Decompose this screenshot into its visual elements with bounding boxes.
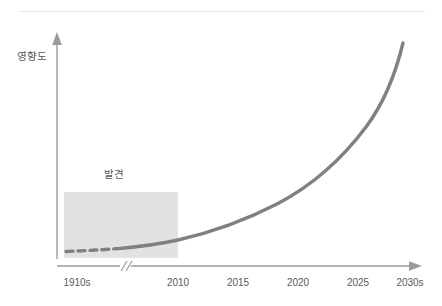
x-tick-label-1910s: 1910s [63, 277, 90, 288]
chart-plot-area [0, 0, 442, 306]
x-axis-arrowhead [409, 261, 422, 271]
discovery-region-label: 발견 [104, 166, 124, 181]
x-tick-label-2020: 2020 [287, 277, 309, 288]
x-tick-label-2015: 2015 [227, 277, 249, 288]
x-tick-label-2030s: 2030s [396, 277, 423, 288]
x-tick-label-2010: 2010 [167, 277, 189, 288]
axis-break-slash-1 [121, 261, 127, 271]
y-axis-label: 영향도 [17, 48, 48, 63]
y-axis-arrowhead [52, 32, 62, 45]
chart-figure: 영향도 발견 1910s 2010 2015 2020 2025 2030s [0, 0, 442, 306]
x-tick-label-2025: 2025 [347, 277, 369, 288]
